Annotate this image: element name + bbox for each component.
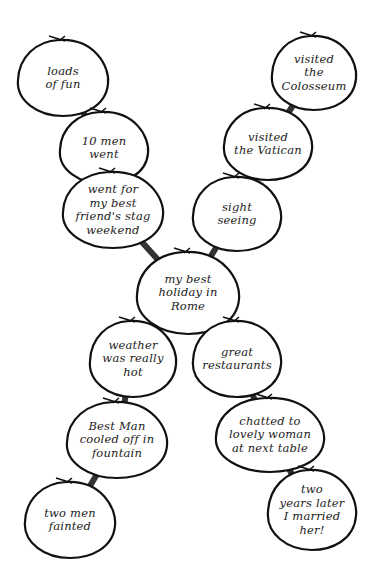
node-loads-of-fun: loads of fun (18, 40, 108, 116)
node-label: weather was really hot (102, 339, 163, 380)
node-label: two years later I married her! (280, 483, 345, 537)
node-label: great restaurants (202, 346, 272, 373)
node-label: Best Man cooled off in fountain (80, 420, 155, 461)
node-fainted: two men fainted (25, 482, 115, 558)
node-label: went for my best friend's stag weekend (75, 183, 150, 237)
node-restaurants: great restaurants (193, 321, 281, 397)
node-vatican: visited the Vatican (224, 108, 312, 180)
node-married: two years later I married her! (268, 470, 356, 550)
node-label: my best holiday in Rome (158, 273, 217, 314)
node-colosseum: visited the Colosseum (272, 36, 356, 110)
node-label: loads of fun (45, 65, 80, 92)
node-label: visited the Colosseum (281, 53, 346, 94)
node-sight-seeing: sight seeing (193, 177, 281, 251)
node-best-man: Best Man cooled off in fountain (67, 402, 167, 478)
node-label: visited the Vatican (234, 131, 302, 158)
node-chatted: chatted to lovely woman at next table (216, 398, 324, 472)
node-stag-weekend: went for my best friend's stag weekend (63, 172, 163, 248)
node-label: two men fainted (44, 507, 96, 534)
node-label: 10 men went (82, 135, 127, 162)
bubble-diagram: my best holiday in Romeloads of fun10 me… (0, 0, 377, 581)
node-label: sight seeing (217, 201, 256, 228)
node-weather: weather was really hot (90, 321, 176, 397)
node-label: chatted to lovely woman at next table (229, 415, 311, 456)
